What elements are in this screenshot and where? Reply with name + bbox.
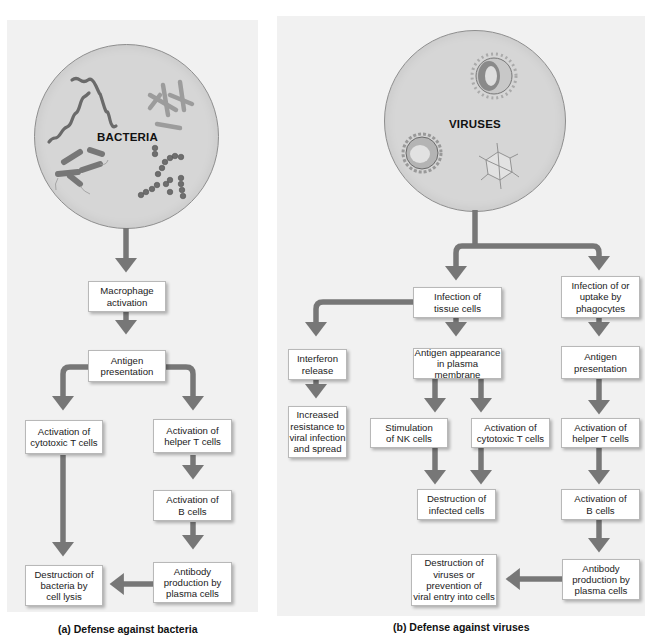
box-activation-helper-t-cells: Activation of helper T cells: [561, 418, 640, 448]
box-activation-helper-t-cells: Activation of helper T cells: [153, 419, 232, 453]
box-infection-tissue-cells: Infection of tissue cells: [413, 287, 502, 318]
arrow-viruses-to-tissue-cells: [456, 246, 475, 276]
arrow-tissue-to-interferon: [316, 302, 413, 332]
box-destruction-bacteria: Destruction of bacteria by cell lysis: [25, 565, 103, 606]
caption-panel-a: (a) Defense against bacteria: [58, 623, 197, 635]
box-stimulation-nk-cells: Stimulation of NK cells: [370, 418, 448, 448]
box-increased-resistance: Increased resistance to viral infection …: [288, 406, 347, 458]
box-antigen-presentation: Antigen presentation: [561, 346, 640, 379]
arrow-antigen-to-cytotoxic: [63, 367, 88, 406]
box-activation-b-cells: Activation of B cells: [153, 490, 232, 521]
flow-arrows: [0, 0, 649, 640]
box-infection-uptake-phagocytes: Infection of or uptake by phagocytes: [561, 276, 640, 318]
box-activation-b-cells: Activation of B cells: [561, 489, 640, 520]
box-antigen-presentation: Antigen presentation: [88, 350, 166, 382]
box-interferon-release: Interferon release: [288, 349, 347, 380]
caption-panel-b: (b) Defense against viruses: [393, 621, 530, 633]
box-destruction-viruses: Destruction of viruses or prevention of …: [411, 554, 497, 606]
box-antibody-production: Antibody production by plasma cells: [153, 562, 232, 603]
box-antibody-production: Antibody production by plasma cells: [562, 559, 640, 600]
box-activation-cytotoxic-t-cells: Activation of cytotoxic T cells: [471, 418, 550, 448]
arrow-viruses-to-phagocytes: [475, 246, 599, 266]
box-activation-cytotoxic-t-cells: Activation of cytotoxic T cells: [25, 420, 103, 454]
box-destruction-infected-cells: Destruction of infected cells: [417, 489, 496, 520]
arrow-antigen-to-helper: [165, 367, 193, 406]
box-macrophage-activation: Macrophage activation: [88, 281, 166, 312]
box-antigen-appearance: Antigen appearance in plasma membrane: [413, 348, 502, 379]
